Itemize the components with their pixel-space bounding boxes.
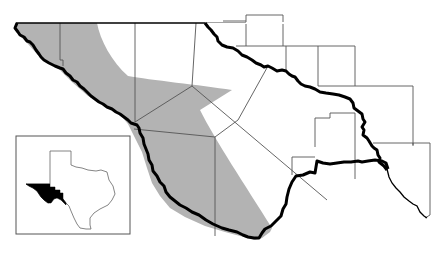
county-line xyxy=(238,66,268,120)
county-line xyxy=(223,15,283,46)
main-map xyxy=(0,0,446,256)
map-figure xyxy=(0,0,446,256)
rio-grande-border-upper xyxy=(205,23,387,170)
rio-grande-lower-thin xyxy=(386,163,427,218)
county-line xyxy=(315,113,355,147)
county-line xyxy=(373,143,430,218)
